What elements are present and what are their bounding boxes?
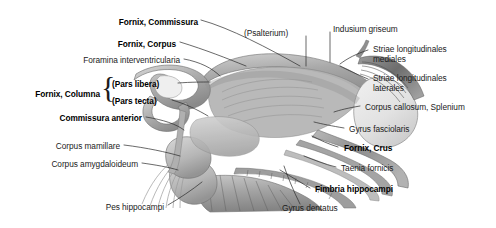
- striae-laterales-line1: Striae longitudinales: [373, 73, 447, 83]
- label-corpus-mamillare: Corpus mamillare: [30, 141, 120, 151]
- striae-mediales-line2: mediales: [373, 54, 406, 64]
- label-pes-hippocampi: Pes hippocampi: [88, 202, 164, 212]
- label-taenia-fornicis: Taenia fornicis: [341, 163, 393, 173]
- label-fornix-crus: Fornix, Crus: [344, 143, 392, 153]
- striae-laterales-line2: laterales: [373, 83, 404, 93]
- label-corpus-callosum-splenium: Corpus callosum, Splenium: [365, 102, 465, 112]
- label-foramina-interventricularia: Foramina interventricularia: [30, 55, 180, 65]
- label-fornix-columna: Fornix, Columna: [14, 89, 100, 99]
- label-striae-longitudinales-mediales: Striae longitudinales mediales: [373, 44, 493, 64]
- label-pars-tecta: (Pars tecta): [112, 96, 157, 106]
- label-commissura-anterior: Commissura anterior: [18, 113, 142, 123]
- label-psalterium: (Psalterium): [244, 28, 288, 38]
- indusium-griseum-stalk: [356, 40, 369, 58]
- label-pars-libera: (Pars libera): [112, 79, 159, 89]
- label-fornix-commissura: Fornix, Commissura: [56, 17, 198, 27]
- label-fimbria-hippocampi: Fimbria hippocampi: [315, 184, 393, 194]
- label-corpus-amygdaloideum: Corpus amygdaloideum: [18, 159, 138, 169]
- label-gyrus-fasciolaris: Gyrus fasciolaris: [349, 124, 409, 134]
- label-striae-longitudinales-laterales: Striae longitudinales laterales: [373, 73, 493, 93]
- leader-fornix-corpus: [180, 42, 246, 66]
- label-indusium-griseum: Indusium griseum: [333, 24, 398, 34]
- label-fornix-corpus: Fornix, Corpus: [56, 39, 176, 49]
- anatomy-figure: Fornix, Commissura Fornix, Corpus Forami…: [0, 0, 496, 228]
- striae-mediales-line1: Striae longitudinales: [373, 44, 447, 54]
- label-gyrus-dentatus: Gyrus dentatus: [282, 203, 338, 213]
